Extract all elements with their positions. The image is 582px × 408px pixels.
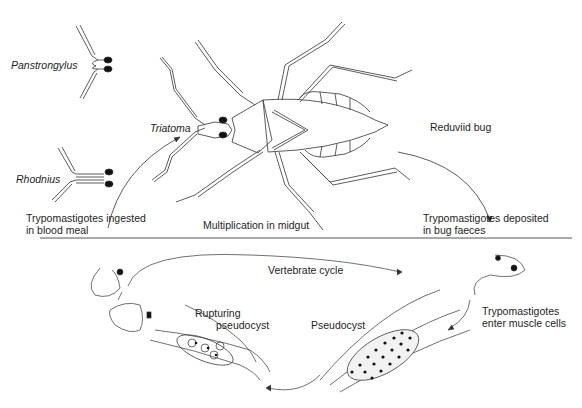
vertebrate-cycle-arrow xyxy=(128,254,400,286)
panstrongylus-head-icon xyxy=(76,25,112,99)
diagram-drawing xyxy=(0,0,582,408)
label-reduviid-bug: Reduviid bug xyxy=(430,121,491,133)
label-enter-line2: enter muscle cells xyxy=(482,317,566,329)
rhodnius-head-icon xyxy=(52,147,113,202)
label-rupturing-line1: Rupturing xyxy=(195,307,241,319)
label-ingested-line1: Trypomastigotes ingested xyxy=(26,212,146,224)
label-panstrongylus: Panstrongylus xyxy=(11,59,78,71)
label-rhodnius: Rhodnius xyxy=(16,173,60,185)
deposit-arrow xyxy=(398,152,490,220)
label-enter-line1: Trypomastigotes xyxy=(482,305,559,317)
triatoma-bug-icon xyxy=(152,22,412,230)
label-triatoma: Triatoma xyxy=(150,122,191,134)
label-pseudocyst: Pseudocyst xyxy=(311,319,365,331)
label-deposited-line2: in bug faeces xyxy=(423,224,485,236)
trypomastigote-right-icon xyxy=(474,255,525,295)
label-ingested-line2: in blood meal xyxy=(26,224,88,236)
label-rupturing-line2: pseudocyst xyxy=(216,319,269,331)
trypomastigote-icon xyxy=(91,268,120,296)
label-midgut: Multiplication in midgut xyxy=(203,219,309,231)
label-deposited-line1: Trypomastigotes deposited xyxy=(423,212,549,224)
rupturing-pseudocyst-shape xyxy=(173,329,237,372)
label-vertebrate-cycle: Vertebrate cycle xyxy=(268,264,343,276)
